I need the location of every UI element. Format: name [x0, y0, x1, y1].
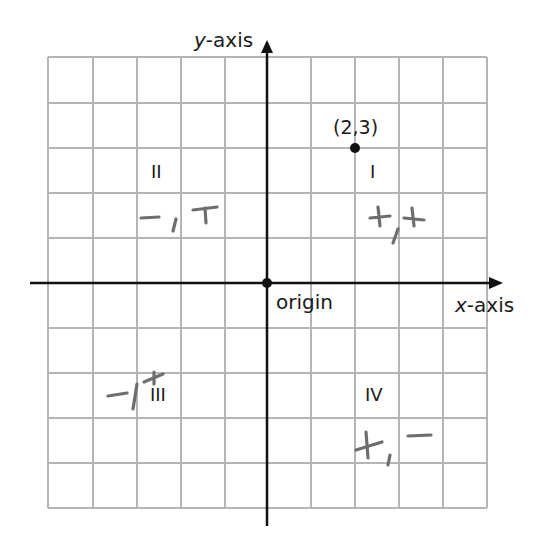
- coordinate-plane: origin y-axis x-axis (2,3) I II III IV: [0, 0, 537, 552]
- y-axis-label: y-axis: [193, 28, 253, 52]
- x-axis-arrow-icon: [489, 277, 503, 289]
- quadrant-II-label: II: [151, 161, 162, 182]
- x-axis-label: x-axis: [454, 293, 514, 317]
- point-label: (2,3): [333, 116, 378, 138]
- y-axis-arrow-icon: [261, 40, 273, 53]
- quadrant-I-label: I: [370, 161, 375, 182]
- handwritten-signs-IV: [356, 432, 431, 465]
- point-2-3: [350, 143, 360, 153]
- handwritten-signs-II: [141, 207, 217, 231]
- origin-dot: [262, 278, 272, 288]
- quadrant-III-label: III: [150, 384, 166, 405]
- quadrant-IV-label: IV: [365, 384, 383, 405]
- origin-label: origin: [276, 290, 333, 314]
